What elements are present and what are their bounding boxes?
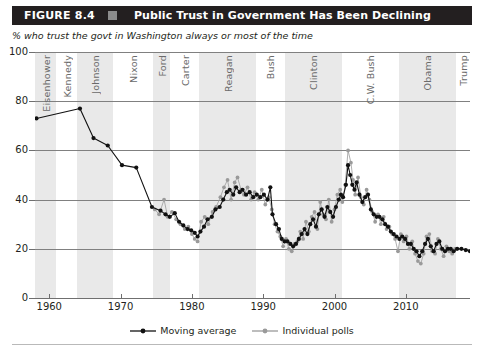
- data-point: [198, 229, 202, 233]
- y-tick-label-20: 20: [0, 243, 28, 254]
- president-label-obama: Obama: [422, 55, 433, 90]
- legend-swatch-icon: [130, 326, 156, 336]
- data-point: [350, 183, 354, 187]
- data-point: [327, 198, 331, 202]
- data-point: [455, 247, 459, 251]
- data-point: [297, 237, 301, 241]
- data-point: [301, 237, 305, 241]
- data-point: [459, 247, 463, 251]
- data-point: [210, 215, 214, 219]
- data-point: [260, 188, 264, 192]
- data-point: [346, 149, 350, 153]
- legend-label: Individual polls: [282, 325, 353, 336]
- data-point: [168, 215, 172, 219]
- x-tick-label-1990: 1990: [250, 301, 275, 312]
- data-point: [331, 215, 335, 219]
- x-tick-label-1970: 1970: [108, 301, 133, 312]
- data-point: [423, 242, 427, 246]
- data-point: [348, 173, 352, 177]
- data-point: [294, 242, 298, 246]
- data-point: [163, 212, 167, 216]
- data-point: [407, 247, 411, 251]
- data-point: [320, 207, 324, 211]
- y-tick-label-0: 0: [0, 292, 28, 303]
- data-point: [420, 249, 424, 253]
- data-point: [416, 259, 420, 263]
- y-tick-label-60: 60: [0, 144, 28, 155]
- data-point: [369, 207, 373, 211]
- president-label-reagan: Reagan: [223, 55, 234, 92]
- data-point: [221, 198, 225, 202]
- data-point: [314, 225, 318, 229]
- data-point: [355, 180, 359, 184]
- legend-label: Moving average: [160, 325, 236, 336]
- y-tick-mark-100: [29, 52, 35, 53]
- data-point: [233, 180, 237, 184]
- x-axis-line: [35, 298, 470, 299]
- data-point: [268, 185, 272, 189]
- data-point: [35, 116, 39, 120]
- data-point: [231, 193, 235, 197]
- data-point: [181, 223, 185, 227]
- data-point: [464, 248, 468, 252]
- data-point: [334, 205, 338, 209]
- data-point: [403, 237, 407, 241]
- president-label-johnson: Johnson: [90, 55, 101, 94]
- data-point: [281, 244, 285, 248]
- data-point: [417, 254, 421, 258]
- president-label-nixon: Nixon: [128, 55, 139, 83]
- series-line: [36, 109, 470, 257]
- series-moving-average: [35, 106, 470, 258]
- data-point: [134, 166, 138, 170]
- figure-number: FIGURE 8.4: [24, 9, 95, 22]
- president-label-carter: Carter: [180, 55, 191, 86]
- data-point: [322, 215, 326, 219]
- data-point: [356, 176, 360, 180]
- data-point: [300, 232, 304, 236]
- data-point: [177, 220, 181, 224]
- y-tick-label-100: 100: [0, 46, 28, 57]
- data-point: [432, 249, 436, 253]
- data-point: [409, 242, 413, 246]
- y-tick-mark-80: [29, 101, 35, 102]
- y-tick-mark-60: [29, 150, 35, 151]
- data-point: [313, 210, 317, 214]
- data-point: [158, 209, 162, 213]
- series-line: [155, 150, 455, 263]
- data-point: [429, 244, 433, 248]
- data-point: [262, 193, 266, 197]
- president-label-c-w-bush: C.W. Bush: [365, 55, 376, 104]
- data-point: [205, 217, 209, 221]
- data-point: [419, 262, 423, 266]
- data-point: [353, 193, 357, 197]
- data-point: [78, 106, 82, 110]
- header-square-icon: [108, 11, 117, 20]
- data-point: [311, 217, 315, 221]
- data-point: [193, 231, 197, 235]
- data-point: [229, 198, 233, 202]
- president-label-eisenhower: Eisenhower: [41, 55, 52, 112]
- data-point: [255, 193, 259, 197]
- data-point: [189, 228, 193, 232]
- data-point: [346, 163, 350, 167]
- data-point: [157, 212, 161, 216]
- data-point: [270, 212, 274, 216]
- data-point: [206, 222, 210, 226]
- data-point: [240, 188, 244, 192]
- data-point: [344, 183, 348, 187]
- data-point: [325, 205, 329, 209]
- data-point: [290, 249, 294, 253]
- data-point: [218, 205, 222, 209]
- data-point: [236, 176, 240, 180]
- data-point: [248, 190, 252, 194]
- data-point: [304, 220, 308, 224]
- x-tick-label-1960: 1960: [37, 301, 62, 312]
- data-point: [228, 188, 232, 192]
- chart-legend: Moving averageIndividual polls: [0, 325, 484, 336]
- data-point: [414, 249, 418, 253]
- data-point: [328, 210, 332, 214]
- data-point: [277, 227, 281, 231]
- data-point: [426, 237, 430, 241]
- data-point: [330, 220, 334, 224]
- data-point: [150, 205, 154, 209]
